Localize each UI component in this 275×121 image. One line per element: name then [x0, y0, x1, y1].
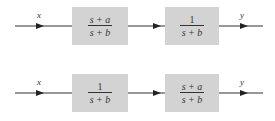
fraction-bar — [180, 92, 205, 93]
input-label: x — [37, 77, 41, 87]
transfer-block: s + a s + b — [165, 74, 219, 112]
transfer-block: 1 s + b — [165, 7, 219, 45]
transfer-function: 1 s + b — [88, 81, 113, 105]
transfer-block: s + a s + b — [72, 7, 128, 45]
output-label: y — [240, 10, 244, 20]
block-diagram-figure: x s + a s + b 1 s + b y x 1 s + b s + a … — [0, 0, 275, 121]
output-label: y — [240, 77, 244, 87]
transfer-function: 1 s + b — [180, 14, 205, 38]
arrow-icon — [240, 90, 248, 96]
denominator: s + b — [180, 94, 205, 105]
numerator: 1 — [187, 14, 196, 25]
numerator: 1 — [95, 81, 104, 92]
transfer-function: s + a s + b — [88, 14, 113, 38]
transfer-block: 1 s + b — [72, 74, 128, 112]
denominator: s + b — [88, 94, 113, 105]
arrow-icon — [36, 23, 44, 29]
fraction-bar — [88, 92, 113, 93]
denominator: s + b — [180, 27, 205, 38]
arrow-icon — [240, 23, 248, 29]
input-label: x — [37, 10, 41, 20]
fraction-bar — [88, 25, 113, 26]
signal-lines — [0, 0, 275, 121]
arrow-icon — [36, 90, 44, 96]
numerator: s + a — [180, 81, 205, 92]
arrow-icon — [153, 23, 161, 29]
fraction-bar — [180, 25, 205, 26]
transfer-function: s + a s + b — [180, 81, 205, 105]
denominator: s + b — [88, 27, 113, 38]
numerator: s + a — [88, 14, 113, 25]
arrow-icon — [153, 90, 161, 96]
